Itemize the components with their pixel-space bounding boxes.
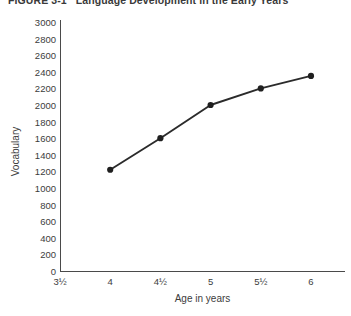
series-line xyxy=(110,76,311,170)
data-point-marker xyxy=(107,167,113,173)
chart-plot-area: 0200400600800100012001400160018002000220… xyxy=(0,0,351,316)
data-point-marker xyxy=(258,85,264,91)
data-series xyxy=(0,0,351,316)
data-point-marker xyxy=(157,135,163,141)
figure-container: FIGURE 3-1Language Development in the Ea… xyxy=(0,0,351,316)
series-markers xyxy=(107,73,314,173)
data-point-marker xyxy=(308,73,314,79)
data-point-marker xyxy=(208,102,214,108)
